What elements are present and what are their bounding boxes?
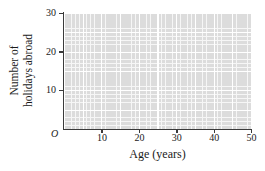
y-axis-tick-20 [59,51,63,52]
chart-figure: 30 20 10 10 20 30 40 50 O Age (years) Nu… [0,0,265,171]
x-axis-tick-label-30: 30 [165,133,189,143]
origin-label: O [51,128,58,139]
x-axis-title: Age (years) [64,147,251,162]
y-axis-title-line-2: holidays abroad [21,9,35,133]
x-axis-tick-label-40: 40 [202,133,226,143]
x-axis-tick-label-10: 10 [90,133,114,143]
y-axis-tick-10 [59,90,63,91]
x-axis-tick-label-20: 20 [127,133,151,143]
x-axis-tick-label-50: 50 [240,133,264,143]
y-axis-tick-label-10: 10 [34,85,56,95]
plot-area [64,13,251,129]
y-axis-title-line-1: Number of [8,9,22,133]
grid-major-lines [64,13,251,129]
y-axis-tick-label-30: 30 [34,8,56,18]
y-axis-tick-label-20: 20 [34,47,56,57]
x-axis-line [63,129,252,131]
y-axis-line [63,12,65,130]
y-axis-tick-30 [59,13,63,14]
y-axis-title: Number of holidays abroad [8,9,35,133]
